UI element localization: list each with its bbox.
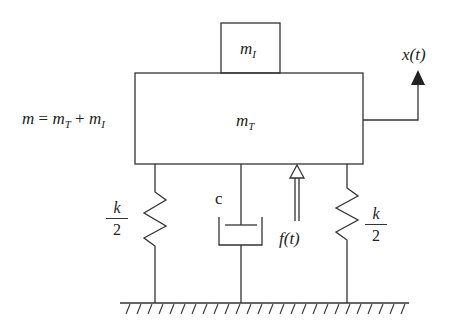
- main-mass-label: mT: [236, 112, 254, 132]
- eq-sign: =: [39, 109, 49, 128]
- displacement-connector: [363, 83, 418, 120]
- mass-spring-damper-diagram: [0, 0, 455, 332]
- eq-term1-sub: T: [65, 118, 71, 130]
- left-spring: [144, 164, 166, 303]
- mass-symbol: m: [240, 39, 252, 58]
- mass-symbol: m: [236, 111, 248, 130]
- left-spring-stiffness: k 2: [106, 200, 128, 238]
- displacement-arrowhead: [411, 70, 425, 85]
- frac-numerator: k: [113, 200, 120, 218]
- damper-label: c: [215, 190, 223, 207]
- mass-subscript: I: [252, 48, 256, 60]
- eq-term1: m: [52, 109, 64, 128]
- force-label: f(t): [279, 230, 300, 247]
- total-mass-equation: m = mT + mI: [22, 110, 105, 130]
- displacement-label: x(t): [402, 46, 426, 63]
- frac-numerator: k: [372, 206, 379, 224]
- frac-denominator: 2: [372, 225, 380, 244]
- damper: [219, 164, 262, 303]
- eq-term2-sub: I: [101, 118, 105, 130]
- right-spring-stiffness: k 2: [365, 206, 387, 244]
- eq-lhs: m: [22, 109, 34, 128]
- inertial-mass-label: mI: [240, 40, 256, 60]
- frac-denominator: 2: [113, 219, 121, 238]
- eq-plus: +: [75, 109, 85, 128]
- mass-subscript: T: [248, 120, 254, 132]
- eq-term2: m: [89, 109, 101, 128]
- force-arrow: [290, 165, 304, 221]
- ground-hatching: [126, 304, 405, 314]
- right-spring: [336, 164, 358, 303]
